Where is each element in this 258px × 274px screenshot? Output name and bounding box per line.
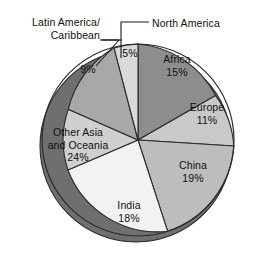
slice-label-china-name: China xyxy=(164,159,222,172)
slice-label-europe-pct: 11% xyxy=(178,114,236,127)
slice-label-other-asia-line2: and Oceania xyxy=(32,139,124,152)
slice-label-china: China 19% xyxy=(164,159,222,184)
slice-label-other-asia-line1: Other Asia xyxy=(32,126,124,139)
callout-latin-america-line1: Latin America/ xyxy=(32,16,100,28)
slice-label-other-asia-oceania: Other Asia and Oceania 24% xyxy=(32,126,124,164)
slice-label-other-asia-pct: 24% xyxy=(32,151,124,164)
slice-label-europe-name: Europe xyxy=(178,101,236,114)
slice-label-india: India 18% xyxy=(100,199,158,224)
callout-label-latin-america-caribbean: Latin America/ Caribbean xyxy=(4,16,100,41)
slice-label-europe: Europe 11% xyxy=(178,101,236,126)
callout-label-north-america: North America xyxy=(152,17,220,30)
slice-label-africa-name: Africa xyxy=(148,53,206,66)
callout-latin-america-line2: Caribbean xyxy=(51,29,100,41)
slice-label-india-name: India xyxy=(100,199,158,212)
slice-label-north-america-pct: 5% xyxy=(115,47,145,60)
slice-label-latin-america-pct: 9% xyxy=(72,63,104,76)
slice-label-africa: Africa 15% xyxy=(148,53,206,78)
slice-label-china-pct: 19% xyxy=(164,172,222,185)
pie-chart-figure: Latin America/ Caribbean North America A… xyxy=(0,0,258,274)
slice-label-north-america-pct-value: 5% xyxy=(115,47,145,60)
slice-label-latin-america-pct-value: 9% xyxy=(72,63,104,76)
callout-north-america-line1: North America xyxy=(152,17,220,29)
slice-label-india-pct: 18% xyxy=(100,212,158,225)
slice-label-africa-pct: 15% xyxy=(148,66,206,79)
